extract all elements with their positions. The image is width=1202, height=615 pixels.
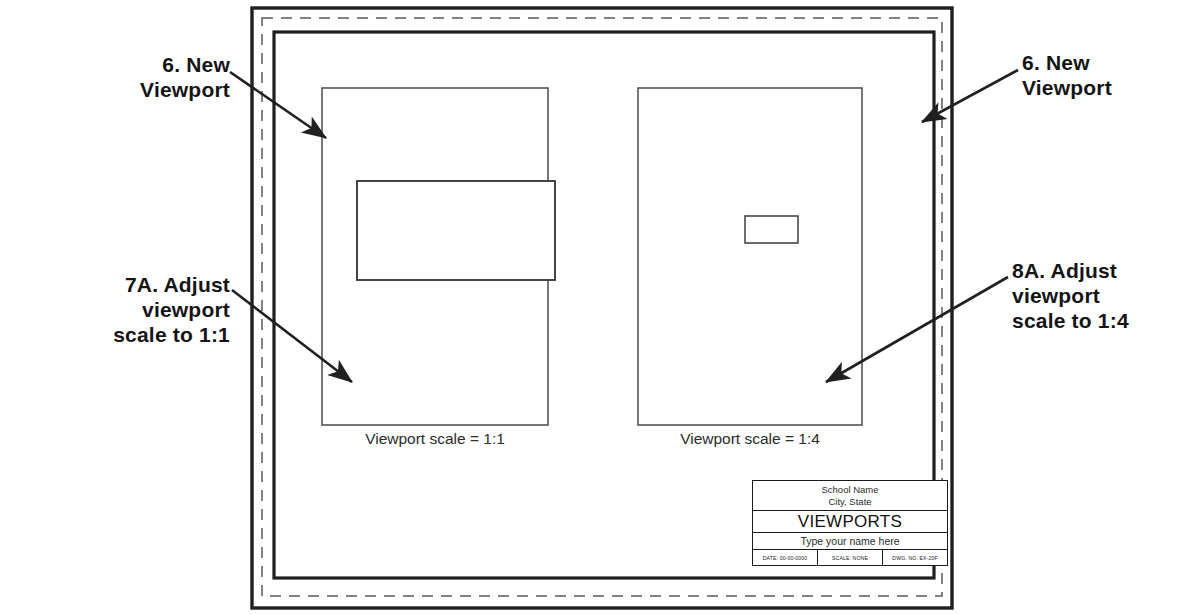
right-viewport-content-rectangle bbox=[745, 216, 798, 243]
title-block-name-field[interactable]: Type your name here bbox=[753, 533, 947, 550]
leader-adjust-left bbox=[232, 290, 352, 382]
title-block-organization-row: School Name City, State bbox=[753, 481, 947, 511]
callout-new-viewport-right: 6. New Viewport bbox=[1022, 50, 1200, 100]
title-block-school-name: School Name bbox=[821, 484, 878, 496]
left-viewport-frame[interactable] bbox=[322, 88, 548, 425]
right-viewport-frame[interactable] bbox=[638, 88, 862, 425]
title-block-meta-row: DATE: 00-00-0000 SCALE: NONE DWG. NO. EX… bbox=[753, 550, 947, 565]
title-block-city-state: City, State bbox=[828, 496, 871, 508]
left-viewport-content-rectangle bbox=[357, 181, 555, 280]
callout-adjust-viewport-scale-right: 8A. Adjust viewport scale to 1:4 bbox=[1012, 258, 1202, 333]
title-block-drawing-title: VIEWPORTS bbox=[753, 511, 947, 533]
title-block-drawing-number-cell: DWG. NO. EX-20F bbox=[883, 550, 947, 565]
title-block-scale-cell: SCALE: NONE bbox=[818, 550, 883, 565]
title-block: School Name City, State VIEWPORTS Type y… bbox=[752, 480, 948, 566]
title-block-date-cell: DATE: 00-00-0000 bbox=[753, 550, 818, 565]
right-viewport-scale-caption: Viewport scale = 1:4 bbox=[638, 430, 862, 448]
left-viewport-scale-caption: Viewport scale = 1:1 bbox=[322, 430, 548, 448]
callout-new-viewport-left: 6. New Viewport bbox=[18, 52, 230, 102]
callout-adjust-viewport-scale-left: 7A. Adjust viewport scale to 1:1 bbox=[10, 272, 230, 347]
cad-layout-diagram: 6. New Viewport 7A. Adjust viewport scal… bbox=[0, 0, 1202, 615]
leader-new-viewport-left bbox=[230, 72, 326, 138]
leader-new-viewport-right bbox=[922, 70, 1018, 122]
leader-adjust-right bbox=[826, 277, 1008, 382]
